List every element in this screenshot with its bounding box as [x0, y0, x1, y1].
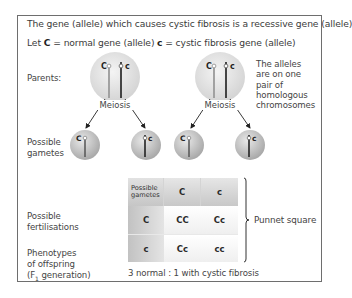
- svg-text:C: C: [76, 134, 82, 143]
- gamete-2: c: [131, 130, 161, 160]
- parent-cell-2: C c Meiosis: [191, 52, 250, 128]
- svg-text:C: C: [101, 62, 107, 71]
- note-line: homologous: [256, 90, 315, 100]
- ratio-text: 3 normal : 1 with cystic fibrosis: [128, 268, 259, 279]
- svg-text:c: c: [148, 134, 152, 143]
- parent-cell-1: C c Meiosis: [86, 52, 145, 128]
- gamete-1: C: [70, 130, 100, 160]
- punnett-corner: Possiblegametes: [128, 178, 164, 206]
- offspring-cell: CC: [164, 206, 201, 234]
- svg-text:Meiosis: Meiosis: [100, 100, 131, 110]
- note-line: pair of: [256, 80, 315, 90]
- col-header: c: [201, 178, 238, 206]
- svg-text:C: C: [180, 134, 186, 143]
- gamete-4: c: [235, 130, 265, 160]
- svg-text:C: C: [206, 62, 212, 71]
- offspring-cell: Cc: [164, 234, 201, 262]
- row-header: C: [128, 206, 164, 234]
- svg-text:c: c: [252, 134, 256, 143]
- col-header: C: [164, 178, 201, 206]
- punnett-bracket: [244, 178, 249, 262]
- row-header: c: [128, 234, 164, 262]
- offspring-cell: Cc: [201, 206, 238, 234]
- punnett-label: Punnet square: [254, 215, 316, 226]
- corner-line: gametes: [131, 192, 160, 200]
- note-line: chromosomes: [256, 100, 315, 110]
- gamete-3: C: [174, 130, 204, 160]
- svg-text:c: c: [125, 62, 130, 71]
- svg-text:Meiosis: Meiosis: [205, 100, 236, 110]
- svg-text:c: c: [230, 62, 235, 71]
- homologous-note: The alleles are on one pair of homologou…: [256, 59, 315, 110]
- offspring-cell: cc: [201, 234, 238, 262]
- note-line: are on one: [256, 69, 315, 79]
- note-line: The alleles: [256, 59, 315, 69]
